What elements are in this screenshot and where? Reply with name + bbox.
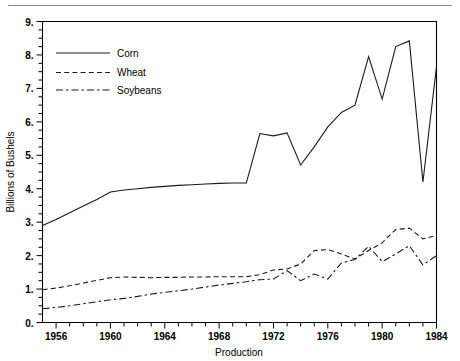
x-tick-label: 1984 <box>425 331 448 342</box>
y-tick-label: 2. <box>25 251 34 262</box>
x-tick-label: 1956 <box>45 331 68 342</box>
x-axis-ticks <box>56 323 436 329</box>
series-lines <box>43 41 437 309</box>
x-axis-tick-labels: 19561960196419681972197619801984 <box>45 331 448 342</box>
x-tick-label: 1968 <box>208 331 231 342</box>
y-tick-label: 8. <box>25 50 34 61</box>
y-axis-title: Billions of Bushels <box>5 131 16 212</box>
y-tick-label: 1. <box>25 284 34 295</box>
line-chart: 19561960196419681972197619801984 0.1.2.3… <box>0 0 460 361</box>
series-line-corn <box>43 41 437 226</box>
y-tick-label: 6. <box>25 117 34 128</box>
chart-legend: CornWheatSoybeans <box>56 48 161 96</box>
x-tick-label: 1980 <box>371 331 394 342</box>
legend-label-corn: Corn <box>117 48 139 59</box>
y-tick-label: 7. <box>25 83 34 94</box>
x-tick-label: 1972 <box>262 331 285 342</box>
y-tick-label: 5. <box>25 150 34 161</box>
y-tick-label: 3. <box>25 217 34 228</box>
plot-frame <box>43 22 437 323</box>
x-axis-title: Production <box>215 347 263 358</box>
legend-label-wheat: Wheat <box>117 67 146 78</box>
x-tick-label: 1960 <box>99 331 122 342</box>
x-tick-label: 1976 <box>317 331 340 342</box>
plot-box <box>43 22 437 323</box>
x-tick-label: 1964 <box>154 331 177 342</box>
y-tick-label: 9. <box>25 17 34 28</box>
y-tick-label: 0. <box>25 318 34 329</box>
legend-label-soybeans: Soybeans <box>117 85 161 96</box>
y-axis-ticks <box>37 22 43 323</box>
chart-page: · 19561960196419681972197619801984 0.1.2… <box>0 0 460 361</box>
y-axis-tick-labels: 0.1.2.3.4.5.6.7.8.9. <box>25 17 34 329</box>
y-tick-label: 4. <box>25 184 34 195</box>
series-line-wheat <box>43 228 437 290</box>
